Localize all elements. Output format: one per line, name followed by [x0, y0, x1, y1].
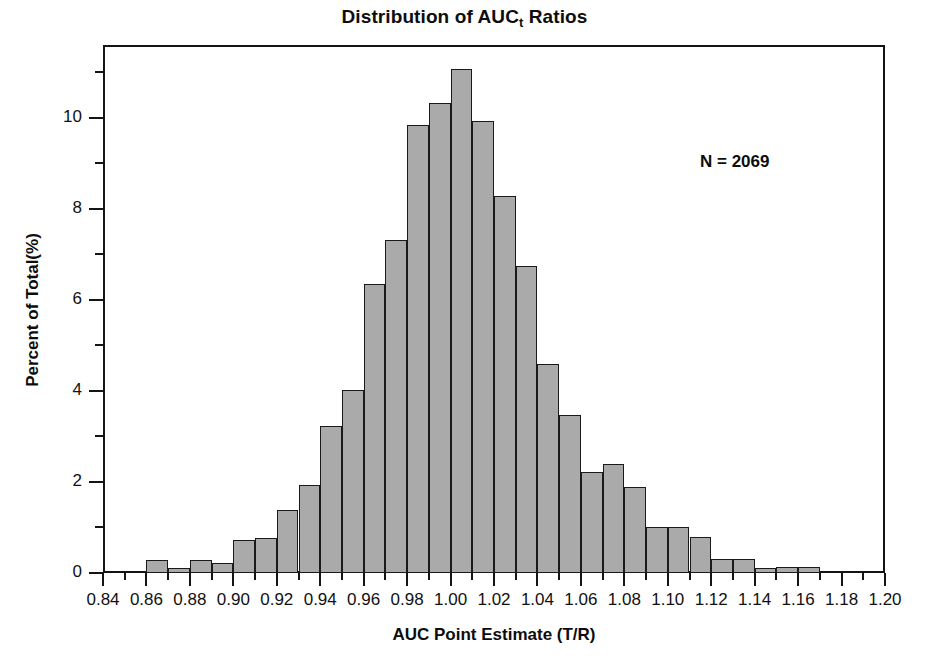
x-axis-minor-tick	[819, 573, 821, 580]
x-axis-tick	[406, 573, 408, 586]
x-axis-tick-label: 1.20	[855, 590, 915, 610]
x-axis-minor-tick	[862, 573, 864, 580]
y-axis-tick-label: 8	[42, 198, 82, 218]
x-axis-tick	[319, 573, 321, 586]
y-axis-tick	[89, 572, 103, 574]
y-axis-tick	[89, 299, 103, 301]
x-axis-tick	[623, 573, 625, 586]
x-axis-minor-tick	[689, 573, 691, 580]
x-axis-minor-tick	[515, 573, 517, 580]
y-axis-tick	[89, 390, 103, 392]
y-axis-tick-label: 6	[42, 289, 82, 309]
x-axis-tick	[102, 573, 104, 586]
x-axis-tick	[884, 573, 886, 586]
x-axis-minor-tick	[775, 573, 777, 580]
x-axis-tick	[232, 573, 234, 586]
x-axis-tick	[145, 573, 147, 586]
x-axis-tick	[536, 573, 538, 586]
axes-ticks: 02468100.840.860.880.900.920.940.960.981…	[0, 0, 929, 663]
y-axis-minor-tick	[95, 71, 103, 73]
y-axis-tick	[89, 208, 103, 210]
x-axis-minor-tick	[254, 573, 256, 580]
x-axis-minor-tick	[341, 573, 343, 580]
y-axis-tick-label: 10	[42, 107, 82, 127]
y-axis-minor-tick	[95, 162, 103, 164]
x-axis-tick	[710, 573, 712, 586]
x-axis-minor-tick	[645, 573, 647, 580]
y-axis-tick-label: 2	[42, 471, 82, 491]
x-axis-tick	[580, 573, 582, 586]
histogram-figure: Distribution of AUCt Ratios 02468100.840…	[0, 0, 929, 663]
y-axis-minor-tick	[95, 253, 103, 255]
x-axis-minor-tick	[732, 573, 734, 580]
y-axis-minor-tick	[95, 526, 103, 528]
y-axis-title: Percent of Total(%)	[23, 150, 43, 470]
y-axis-minor-tick	[95, 344, 103, 346]
x-axis-tick	[754, 573, 756, 586]
x-axis-tick	[189, 573, 191, 586]
x-axis-minor-tick	[124, 573, 126, 580]
x-axis-tick	[493, 573, 495, 586]
x-axis-tick	[450, 573, 452, 586]
x-axis-minor-tick	[167, 573, 169, 580]
x-axis-tick	[667, 573, 669, 586]
x-axis-minor-tick	[298, 573, 300, 580]
y-axis-tick-label: 0	[42, 562, 82, 582]
y-axis-tick	[89, 117, 103, 119]
x-axis-minor-tick	[558, 573, 560, 580]
x-axis-tick	[841, 573, 843, 586]
x-axis-tick	[363, 573, 365, 586]
x-axis-tick	[276, 573, 278, 586]
x-axis-minor-tick	[384, 573, 386, 580]
x-axis-minor-tick	[211, 573, 213, 580]
x-axis-minor-tick	[428, 573, 430, 580]
x-axis-title: AUC Point Estimate (T/R)	[103, 625, 885, 645]
x-axis-tick	[797, 573, 799, 586]
x-axis-minor-tick	[471, 573, 473, 580]
y-axis-minor-tick	[95, 435, 103, 437]
sample-size-annotation: N = 2069	[700, 152, 769, 172]
x-axis-minor-tick	[602, 573, 604, 580]
y-axis-tick-label: 4	[42, 380, 82, 400]
y-axis-tick	[89, 481, 103, 483]
